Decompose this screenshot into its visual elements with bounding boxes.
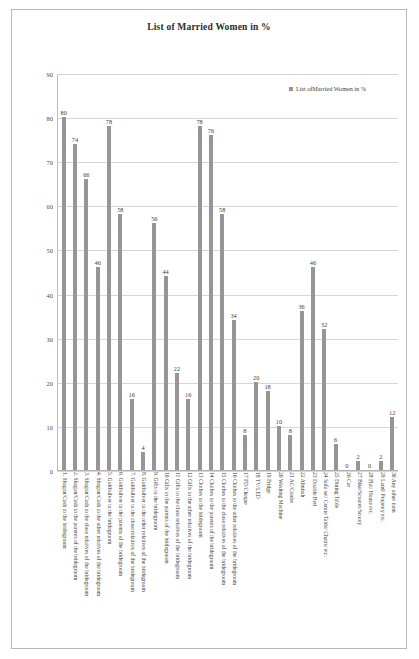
category-label: 4. Shagun/Cash to the other relatives of… — [95, 472, 101, 596]
bar-value-label: 8 — [289, 427, 292, 434]
bar[interactable] — [186, 399, 190, 470]
bar-slot[interactable]: 80 — [58, 74, 69, 470]
bar-slot[interactable]: 6 — [330, 74, 341, 470]
category-slot: 30 Any other item — [387, 472, 398, 652]
bar[interactable] — [107, 126, 111, 470]
category-slot: 28 Flat/ House etc. — [365, 472, 376, 652]
category-label: 15 Clothes to the close relatives of the… — [220, 472, 226, 585]
bar[interactable] — [130, 399, 134, 470]
bar-series: 8074664678581645644221678765834820181083… — [58, 74, 398, 470]
bar[interactable] — [175, 373, 179, 470]
y-axis-tick-label: 40 — [47, 291, 53, 298]
bar-slot[interactable]: 56 — [149, 74, 160, 470]
bar-slot[interactable]: 10 — [273, 74, 284, 470]
bar-value-label: 32 — [321, 321, 327, 328]
bar-value-label: 58 — [117, 206, 123, 213]
bar[interactable] — [62, 117, 66, 470]
category-slot: 17 FD/Cheque — [240, 472, 251, 652]
bar-slot[interactable]: 78 — [194, 74, 205, 470]
bar[interactable] — [118, 214, 122, 470]
bar[interactable] — [379, 461, 383, 470]
bar-slot[interactable]: 76 — [205, 74, 216, 470]
y-axis-tick-label: 80 — [47, 115, 53, 122]
category-label: 27 Bike/Scooter/Scooty — [356, 472, 362, 525]
category-label: 10 Gifts to the parents of the bridegroo… — [163, 472, 169, 564]
bar-value-label: 2 — [379, 453, 382, 460]
bar-value-label: 10 — [276, 418, 282, 425]
category-slot: 29 Land/ Property etc. — [376, 472, 387, 652]
bar[interactable] — [96, 267, 100, 470]
bar-slot[interactable]: 36 — [296, 74, 307, 470]
bar[interactable] — [198, 126, 202, 470]
category-label: 22 Almirah — [299, 472, 305, 497]
bar-slot[interactable]: 18 — [262, 74, 273, 470]
bar-slot[interactable]: 32 — [319, 74, 330, 470]
category-slot: 8. Gold/silver to the other relatives of… — [138, 472, 149, 652]
bar-slot[interactable]: 34 — [228, 74, 239, 470]
y-axis-tick-label: 70 — [47, 159, 53, 166]
bar-slot[interactable]: 46 — [307, 74, 318, 470]
bar-slot[interactable]: 46 — [92, 74, 103, 470]
bar[interactable] — [390, 417, 394, 470]
bar-slot[interactable]: 8 — [285, 74, 296, 470]
bar[interactable] — [164, 276, 168, 470]
category-label: 24 Sofa set/ Centre Table/ Chairs/ etc. — [322, 472, 328, 557]
bar[interactable] — [141, 452, 145, 470]
bar[interactable] — [288, 435, 292, 470]
bar-value-label: 8 — [243, 427, 246, 434]
bar-slot[interactable]: 74 — [69, 74, 80, 470]
bar-value-label: 46 — [94, 259, 100, 266]
category-label: 28 Flat/ House etc. — [368, 472, 374, 514]
bar[interactable] — [311, 267, 315, 470]
category-slot: 5. Gold/silver to the bridegroom — [103, 472, 114, 652]
bar-slot[interactable]: 2 — [375, 74, 386, 470]
category-slot: 26 Car — [342, 472, 353, 652]
bar[interactable] — [209, 135, 213, 470]
bar[interactable] — [266, 391, 270, 470]
bar[interactable] — [356, 461, 360, 470]
bar-slot[interactable]: 16 — [126, 74, 137, 470]
bar-value-label: 66 — [83, 171, 89, 178]
bar-slot[interactable]: 0 — [341, 74, 352, 470]
bar[interactable] — [254, 382, 258, 470]
bar-slot[interactable]: 12 — [387, 74, 398, 470]
category-slot: 21 AC/Cooler — [285, 472, 296, 652]
bar-slot[interactable]: 58 — [115, 74, 126, 470]
chart-title: List of Married Women in % — [12, 22, 406, 32]
bar-value-label: 78 — [196, 118, 202, 125]
bar-slot[interactable]: 78 — [103, 74, 114, 470]
bar-value-label: 44 — [162, 268, 168, 275]
bar[interactable] — [300, 311, 304, 470]
category-label: 6. Gold/silver to the parents of the bri… — [118, 472, 124, 576]
bar[interactable] — [243, 435, 247, 470]
bar[interactable] — [84, 179, 88, 470]
bar-value-label: 20 — [253, 374, 259, 381]
bar[interactable] — [277, 426, 281, 470]
bar[interactable] — [73, 144, 77, 470]
bar-slot[interactable]: 66 — [81, 74, 92, 470]
category-label: 5. Gold/silver to the bridegroom — [106, 472, 112, 544]
category-label: 3. Shagun/Cash to the close relatives of… — [84, 472, 90, 596]
bar-value-label: 2 — [357, 453, 360, 460]
bar-slot[interactable]: 58 — [217, 74, 228, 470]
category-slot: 16 Clothes to the other relatives of the… — [228, 472, 239, 652]
bar[interactable] — [220, 214, 224, 470]
category-slot: 15 Clothes to the close relatives of the… — [217, 472, 228, 652]
bar-slot[interactable]: 8 — [239, 74, 250, 470]
bar-slot[interactable]: 2 — [353, 74, 364, 470]
category-slot: 9. Gifts to the bridegroom — [149, 472, 160, 652]
bar[interactable] — [322, 329, 326, 470]
bar-slot[interactable]: 16 — [183, 74, 194, 470]
category-slot: 27 Bike/Scooter/Scooty — [353, 472, 364, 652]
bar[interactable] — [334, 444, 338, 470]
bar-slot[interactable]: 4 — [137, 74, 148, 470]
category-slot: 14 Clothes to the parents of the bridegr… — [206, 472, 217, 652]
bar[interactable] — [152, 223, 156, 470]
bar-slot[interactable]: 0 — [364, 74, 375, 470]
bar-value-label: 34 — [230, 312, 236, 319]
bar[interactable] — [232, 320, 236, 470]
bar-slot[interactable]: 44 — [160, 74, 171, 470]
category-slot: 10 Gifts to the parents of the bridegroo… — [160, 472, 171, 652]
bar-slot[interactable]: 22 — [171, 74, 182, 470]
bar-slot[interactable]: 20 — [251, 74, 262, 470]
